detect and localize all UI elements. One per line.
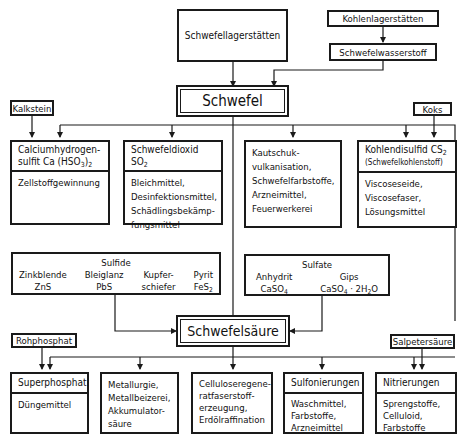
sulfide-item: Kupfer-schiefer (142, 269, 176, 293)
mineral-name: Bleiglanz (85, 269, 124, 280)
schwefel-label: Schwefel (202, 92, 263, 110)
subscript: 2 (88, 161, 92, 169)
koks-box: Koks (413, 102, 452, 116)
superphosphat-box: Superphosphat Düngemittel (10, 372, 89, 434)
mineral-formula: · 2H (347, 283, 367, 294)
subscript: 4 (284, 288, 288, 296)
sulfide-item: ZinkblendeZnS (19, 269, 67, 293)
title-line: Schwefeldioxid (131, 144, 198, 155)
mineral-name: Kupfer- (143, 269, 173, 280)
mineral-formula: CaSO (320, 283, 343, 294)
mineral-name: Zinkblende (19, 269, 67, 280)
nitrierungen-title: Nitrierungen (377, 374, 455, 394)
kohlendisulfid-uses: Viscoseseide, Viscosefaser, Lösungsmitte… (359, 173, 455, 223)
title-synonym: (Schwefelkohlenstoff) (365, 158, 443, 167)
rohphosphat-label: Rohphosphat (16, 335, 72, 346)
title-formula: SO (131, 156, 144, 167)
calciumhydrogensulfit-title: Calciumhydrogen- sulfit Ca (HSO3)2 (12, 142, 108, 172)
mineral-name: Gips (340, 271, 359, 282)
superphosphat-uses: Düngemittel (12, 394, 87, 416)
mineral-formula: CaSO (261, 283, 284, 294)
mineral-formula: PbS (96, 281, 112, 292)
mineral-formula: ZnS (35, 281, 52, 292)
mineral-formula: schiefer (142, 281, 176, 292)
kautschuk-uses: Kautschuk- vulkanisation, Schwefelfarbst… (246, 142, 340, 220)
sulfonierungen-uses: Waschmittel, Farbstoffe, Arzneimittel (285, 394, 362, 438)
mineral-formula: O (371, 283, 378, 294)
schwefellagerstaetten-box: Schwefellagerstätten (177, 9, 288, 62)
nitrierungen-uses: Sprengstoffe, Celluloid, Farbstoffe (377, 394, 455, 438)
schwefeldioxid-title: Schwefeldioxid SO2 (125, 142, 221, 172)
title-formula: Kohlendisulfid CS (365, 144, 443, 155)
cellulose-box: Celluloseregene- ratfaserstoff- erzeugun… (191, 372, 273, 434)
schwefelwasserstoff-label: Schwefelwasserstoff (339, 47, 426, 58)
rohphosphat-box: Rohphosphat (11, 333, 77, 348)
kautschuk-box: Kautschuk- vulkanisation, Schwefelfarbst… (244, 140, 342, 228)
subscript: 2 (144, 161, 148, 169)
schwefelsaeure-label: Schwefelsäure (187, 323, 279, 339)
salpetersaeure-box: Salpetersäure (390, 334, 455, 349)
superphosphat-title: Superphosphat (12, 374, 87, 394)
sulfate-title: Sulfate (246, 256, 388, 271)
sulfate-item: AnhydritCaSO4 (256, 271, 292, 295)
schwefeldioxid-box: Schwefeldioxid SO2 Bleichmittel, Desinfe… (123, 140, 223, 225)
mineral-name: Anhydrit (256, 271, 292, 282)
kohlendisulfid-box: Kohlendisulfid CS2 (Schwefelkohlenstoff)… (357, 140, 457, 228)
sulfate-box: Sulfate AnhydritCaSO4 GipsCaSO4 · 2H2O (244, 254, 390, 296)
sulfonierungen-title: Sulfonierungen (285, 374, 362, 394)
calciumhydrogensulfit-box: Calciumhydrogen- sulfit Ca (HSO3)2 Zells… (10, 140, 110, 225)
metallurgie-box: Metallurgie, Metallbeizerei, Akkumulator… (100, 372, 179, 434)
sulfonierungen-box: Sulfonierungen Waschmittel, Farbstoffe, … (283, 372, 364, 434)
cellulose-uses: Celluloseregene- ratfaserstoff- erzeugun… (193, 374, 271, 430)
subscript: 2 (443, 149, 447, 157)
schwefelwasserstoff-box: Schwefelwasserstoff (329, 43, 437, 61)
calciumhydrogensulfit-uses: Zellstoffgewinnung (12, 172, 108, 194)
koks-label: Koks (423, 104, 443, 115)
sulfate-item: GipsCaSO4 · 2H2O (320, 271, 378, 295)
schwefelsaeure-hub: Schwefelsäure (177, 316, 289, 346)
kohlenlagerstaetten-label: Kohlenlagerstätten (342, 13, 423, 24)
kalkstein-label: Kalkstein (13, 103, 52, 114)
subscript: 2 (209, 286, 213, 294)
mineral-name: Pyrit (194, 269, 213, 280)
title-formula: sulfit Ca (HSO (18, 156, 81, 167)
sulfide-box: Sulfide ZinkblendeZnS BleiglanzPbS Kupfe… (11, 252, 221, 295)
sulfide-item: BleiglanzPbS (85, 269, 124, 293)
schwefeldioxid-uses: Bleichmittel, Desinfektionsmittel, Schäd… (125, 172, 221, 236)
metallurgie-uses: Metallurgie, Metallbeizerei, Akkumulator… (102, 374, 177, 434)
kohlenlagerstaetten-box: Kohlenlagerstätten (327, 10, 439, 27)
schwefellagerstaetten-label: Schwefellagerstätten (185, 30, 280, 41)
schwefel-hub: Schwefel (177, 86, 288, 116)
mineral-formula: FeS (194, 281, 209, 292)
kohlendisulfid-title: Kohlendisulfid CS2 (Schwefelkohlenstoff) (359, 142, 455, 173)
salpetersaeure-label: Salpetersäure (393, 336, 453, 347)
nitrierungen-box: Nitrierungen Sprengstoffe, Celluloid, Fa… (375, 372, 457, 434)
sulfide-title: Sulfide (13, 254, 219, 269)
title-line: Calciumhydrogen- (18, 144, 100, 155)
kalkstein-box: Kalkstein (10, 100, 54, 116)
sulfide-item: PyritFeS2 (194, 269, 213, 293)
